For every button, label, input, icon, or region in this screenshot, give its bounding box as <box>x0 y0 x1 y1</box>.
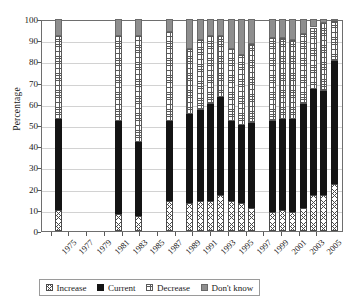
x-axis-tick-label: 1975 <box>60 238 79 257</box>
bar-segment-decrease <box>197 40 204 110</box>
x-axis-tick-mark <box>281 232 282 236</box>
x-axis-tick-mark <box>263 232 264 236</box>
bar-segment-dontknow <box>248 19 255 44</box>
bar-segment-dontknow <box>310 19 317 27</box>
bar-segment-dontknow <box>207 19 214 36</box>
legend-label: Current <box>108 283 136 293</box>
bar-segment-decrease <box>300 34 307 104</box>
legend-item-current[interactable]: Current <box>97 283 135 293</box>
legend-item-decrease[interactable]: Decrease <box>146 283 189 293</box>
bar-segment-decrease <box>289 40 296 118</box>
y-axis-tick-label: 20 <box>0 186 38 195</box>
bar-segment-increase <box>197 201 204 231</box>
bar-segment-dontknow <box>300 19 307 34</box>
x-axis-tick-label: 1991 <box>201 238 220 257</box>
bar-segment-dontknow <box>186 19 193 49</box>
bar-segment-decrease <box>310 28 317 89</box>
bar-segment-increase <box>207 201 214 231</box>
bar-segment-increase <box>166 201 173 231</box>
bar-segment-increase <box>269 212 276 231</box>
bar-segment-current <box>228 121 235 202</box>
bar-segment-current <box>269 121 276 212</box>
y-axis-tick-label: 90 <box>0 37 38 46</box>
x-axis-tick-label: 1999 <box>272 238 291 257</box>
x-axis-tick-mark <box>157 232 158 236</box>
x-axis-tick-label: 1989 <box>184 238 203 257</box>
bar-segment-decrease <box>248 44 255 122</box>
bar-segment-decrease <box>55 36 62 119</box>
plot-area <box>41 20 343 232</box>
bar-segment-decrease <box>186 49 193 115</box>
y-axis-tick-label: 80 <box>0 58 38 67</box>
legend-item-increase[interactable]: Increase <box>46 283 86 293</box>
y-axis-tick-mark <box>37 20 41 21</box>
bar-segment-dontknow <box>135 19 142 36</box>
y-axis-tick-label: 60 <box>0 101 38 110</box>
legend-label: Don't know <box>211 283 253 293</box>
bar-segment-increase <box>310 195 317 231</box>
x-axis-tick-label: 1983 <box>131 238 150 257</box>
bar-segment-increase <box>331 184 338 231</box>
y-axis-tick-mark <box>37 168 41 169</box>
y-axis-tick-label: 50 <box>0 122 38 131</box>
bar-segment-current <box>300 104 307 208</box>
x-axis-tick-mark <box>139 232 140 236</box>
y-axis-tick-mark <box>37 126 41 127</box>
x-axis-tick-mark <box>316 232 317 236</box>
bar-segment-current <box>238 125 245 203</box>
y-axis-tick-label: 70 <box>0 80 38 89</box>
bar-segment-decrease <box>166 32 173 121</box>
x-axis-tick-label: 2003 <box>308 238 327 257</box>
x-axis-tick-mark <box>86 232 87 236</box>
bar-segment-decrease <box>207 36 214 104</box>
y-axis-tick-mark <box>37 62 41 63</box>
bar-segment-current <box>55 119 62 210</box>
bar-segment-dontknow <box>331 19 338 21</box>
y-axis-tick-mark <box>37 84 41 85</box>
bar-segment-dontknow <box>320 19 327 23</box>
y-axis-tick-label: 10 <box>0 207 38 216</box>
bar-segment-current <box>320 91 327 195</box>
x-axis-tick-mark <box>192 232 193 236</box>
legend-swatch-current-icon <box>97 284 104 291</box>
bar-segment-increase <box>300 208 307 231</box>
x-axis-tick-mark <box>104 232 105 236</box>
x-axis-tick-label: 1981 <box>113 238 132 257</box>
bar-segment-dontknow <box>197 19 204 40</box>
y-axis-tick-label: 0 <box>0 228 38 237</box>
x-axis-tick-label: 1979 <box>95 238 114 257</box>
bar-segment-increase <box>279 210 286 231</box>
bar-segment-increase <box>55 210 62 231</box>
bar-segment-dontknow <box>217 19 224 36</box>
bar-segment-current <box>217 97 224 195</box>
x-axis-tick-mark <box>299 232 300 236</box>
bar-segment-dontknow <box>279 19 286 38</box>
bar-segment-dontknow <box>269 19 276 38</box>
bar-segment-dontknow <box>55 19 62 36</box>
x-axis-tick-label: 1995 <box>237 238 256 257</box>
x-axis-tick-label: 1985 <box>148 238 167 257</box>
legend-label: Decrease <box>157 283 190 293</box>
bar-segment-current <box>279 119 286 210</box>
legend-swatch-dontknow-icon <box>201 284 208 291</box>
bar-segment-dontknow <box>228 19 235 49</box>
y-axis-tick-mark <box>37 190 41 191</box>
bar-segment-dontknow <box>166 19 173 32</box>
bar-segment-increase <box>135 216 142 231</box>
x-axis-tick-label: 2001 <box>290 238 309 257</box>
x-axis-tick-mark <box>246 232 247 236</box>
x-axis-tick-label: 1977 <box>77 238 96 257</box>
y-axis-tick-label: 30 <box>0 164 38 173</box>
y-axis-tick-mark <box>37 232 41 233</box>
bar-segment-current <box>289 119 296 212</box>
x-axis-tick-mark <box>51 232 52 236</box>
bar-segment-decrease <box>238 55 245 125</box>
bar-segment-decrease <box>331 21 338 61</box>
bar-segment-increase <box>115 214 122 231</box>
bar-segment-current <box>331 61 338 184</box>
legend-item-dontknow[interactable]: Don't know <box>201 283 253 293</box>
bar-segment-current <box>186 114 193 203</box>
x-axis-tick-label: 1997 <box>255 238 274 257</box>
bar-segment-increase <box>248 208 255 231</box>
x-axis-tick-mark <box>228 232 229 236</box>
